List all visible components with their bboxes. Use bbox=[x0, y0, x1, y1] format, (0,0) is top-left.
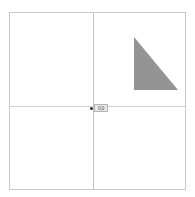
origin-marker-group[interactable]: 0,0 bbox=[90, 103, 108, 113]
canvas-app: 0,0 bbox=[0, 0, 195, 197]
drawing-canvas[interactable]: 0,0 bbox=[9, 12, 186, 190]
vertical-axis bbox=[93, 13, 94, 189]
origin-coordinate-label: 0,0 bbox=[94, 104, 108, 112]
origin-point-icon bbox=[90, 107, 93, 110]
shape-layer bbox=[10, 13, 185, 189]
right-triangle-shape[interactable] bbox=[134, 37, 178, 90]
